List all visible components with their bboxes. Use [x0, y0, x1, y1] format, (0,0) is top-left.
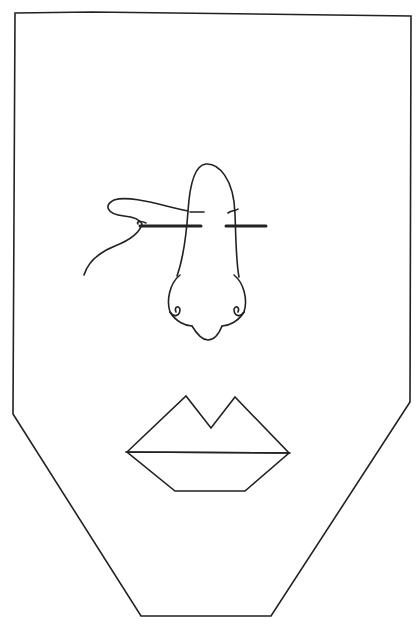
lips [127, 396, 289, 491]
suture-needle [84, 199, 266, 275]
face-drawing [0, 0, 417, 636]
face-outline [13, 12, 411, 616]
nose [168, 164, 245, 340]
